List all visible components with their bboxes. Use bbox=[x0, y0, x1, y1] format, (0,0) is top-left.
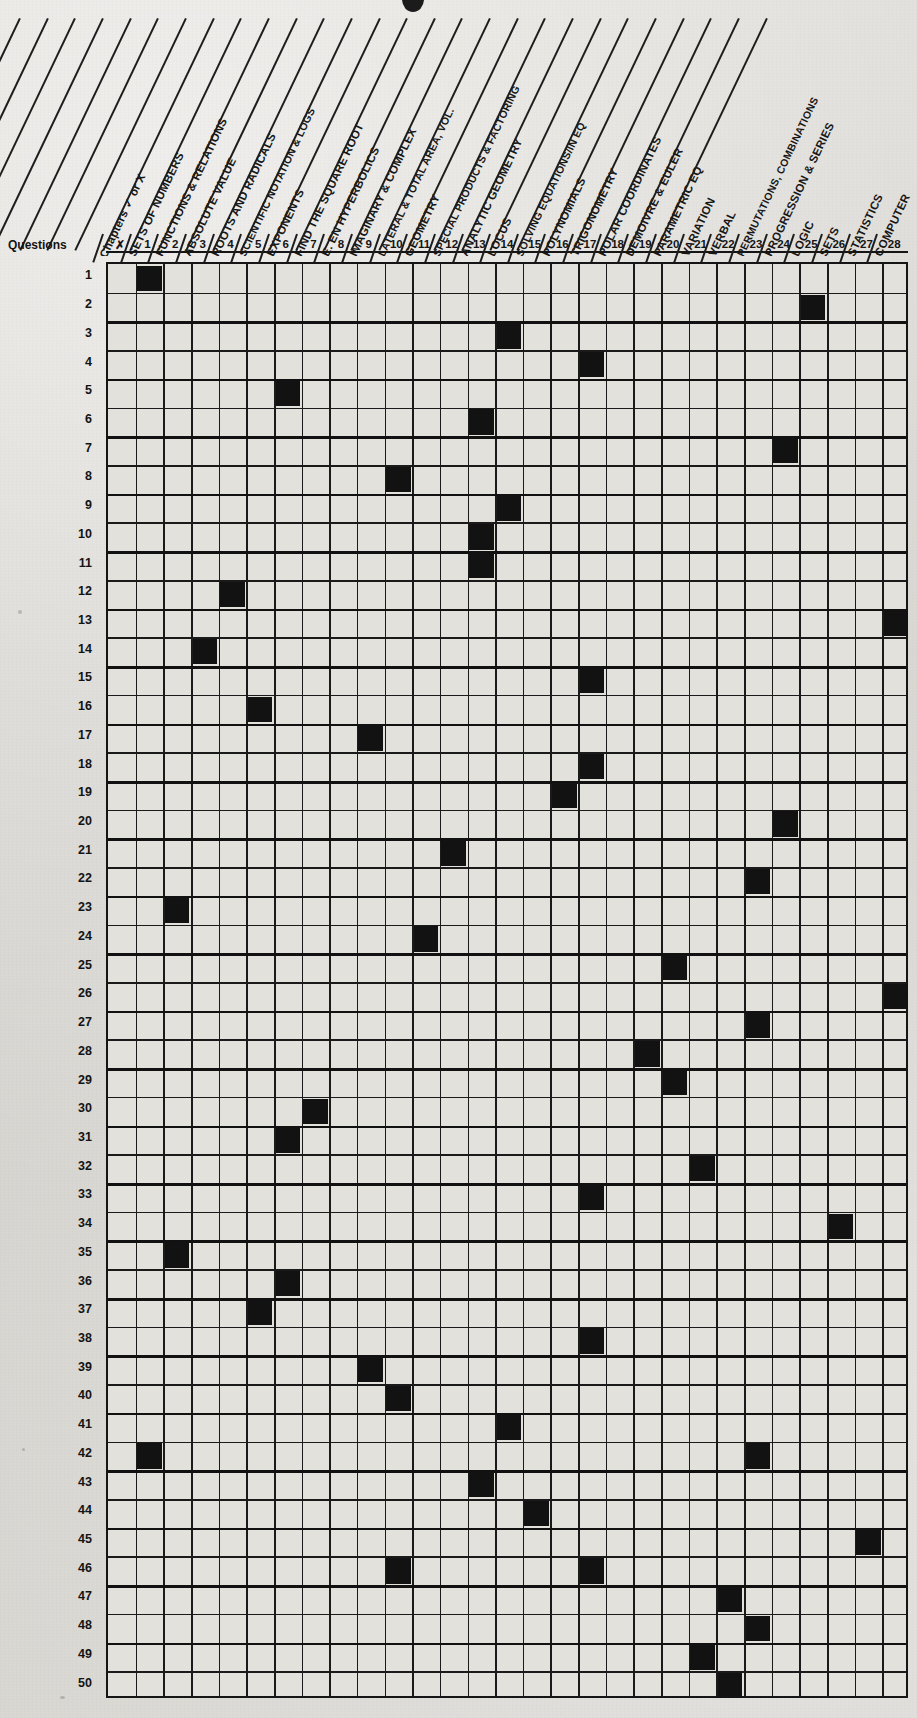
marked-cell[interactable] bbox=[856, 1529, 880, 1554]
row-number-label: 4 bbox=[85, 355, 92, 369]
row-number-label: 36 bbox=[78, 1274, 92, 1288]
grid-hline bbox=[108, 1499, 906, 1501]
row-number-label: 48 bbox=[78, 1618, 92, 1632]
marked-cell[interactable] bbox=[580, 1558, 604, 1583]
marked-cell[interactable] bbox=[884, 610, 908, 635]
column-number-label: 7 bbox=[300, 238, 328, 250]
row-number-label: 31 bbox=[78, 1130, 92, 1144]
grid-hline bbox=[108, 522, 906, 524]
marked-cell[interactable] bbox=[276, 381, 300, 406]
marked-cell[interactable] bbox=[746, 1443, 770, 1468]
grid-hline bbox=[108, 1212, 906, 1214]
marked-cell[interactable] bbox=[497, 496, 521, 521]
marked-cell[interactable] bbox=[386, 1558, 410, 1583]
row-number-label: 7 bbox=[85, 441, 92, 455]
marked-cell[interactable] bbox=[746, 869, 770, 894]
marked-cell[interactable] bbox=[718, 1673, 742, 1698]
grid-hline bbox=[108, 1298, 906, 1301]
marked-cell[interactable] bbox=[580, 1185, 604, 1210]
header-divider-slash bbox=[0, 18, 104, 251]
marked-cell[interactable] bbox=[718, 1587, 742, 1612]
grid-hline bbox=[108, 609, 906, 612]
grid-vline bbox=[191, 264, 193, 1696]
marked-cell[interactable] bbox=[165, 1242, 189, 1267]
marked-cell[interactable] bbox=[248, 1300, 272, 1325]
grid-vline bbox=[827, 264, 829, 1696]
marked-cell[interactable] bbox=[469, 409, 493, 434]
row-number-label: 32 bbox=[78, 1159, 92, 1173]
marked-cell[interactable] bbox=[690, 1644, 714, 1669]
marked-cell[interactable] bbox=[469, 553, 493, 578]
grid-hline bbox=[108, 1442, 906, 1444]
marked-cell[interactable] bbox=[690, 1156, 714, 1181]
marked-cell[interactable] bbox=[829, 1214, 853, 1239]
header-divider-slash bbox=[213, 18, 325, 251]
grid-hline bbox=[108, 925, 906, 927]
row-number-label: 25 bbox=[78, 958, 92, 972]
grid-hline bbox=[108, 1068, 906, 1071]
marked-cell[interactable] bbox=[580, 668, 604, 693]
row-number-label: 35 bbox=[78, 1245, 92, 1259]
marked-cell[interactable] bbox=[524, 1501, 548, 1526]
column-divider-slash bbox=[92, 234, 104, 263]
marked-cell[interactable] bbox=[469, 524, 493, 549]
marked-cell[interactable] bbox=[580, 754, 604, 779]
marked-cell[interactable] bbox=[580, 1328, 604, 1353]
marked-cell[interactable] bbox=[884, 984, 908, 1009]
grid-vline bbox=[219, 264, 221, 1696]
answer-grid[interactable] bbox=[106, 262, 908, 1698]
marked-cell[interactable] bbox=[137, 266, 161, 291]
grid-vline bbox=[246, 264, 248, 1696]
grid-hline bbox=[108, 1183, 906, 1186]
row-number-label: 41 bbox=[78, 1417, 92, 1431]
column-header-band: Chapters ✓ or XSETS OF NUMBERSFUNCTIONS … bbox=[0, 18, 917, 256]
marked-cell[interactable] bbox=[386, 1386, 410, 1411]
marked-cell[interactable] bbox=[441, 840, 465, 865]
row-number-column: 1234567891011121314151617181920212223242… bbox=[0, 262, 104, 1698]
row-number-label: 45 bbox=[78, 1532, 92, 1546]
row-number-label: 3 bbox=[85, 326, 92, 340]
grid-hline bbox=[108, 637, 906, 639]
grid-hline bbox=[108, 695, 906, 697]
marked-cell[interactable] bbox=[746, 1013, 770, 1038]
marked-cell[interactable] bbox=[746, 1616, 770, 1641]
marked-cell[interactable] bbox=[220, 582, 244, 607]
marked-cell[interactable] bbox=[497, 323, 521, 348]
column-number-label: 21 bbox=[687, 238, 715, 250]
grid-vline bbox=[136, 264, 138, 1696]
marked-cell[interactable] bbox=[773, 438, 797, 463]
row-number-label: 24 bbox=[78, 929, 92, 943]
marked-cell[interactable] bbox=[193, 639, 217, 664]
marked-cell[interactable] bbox=[276, 1127, 300, 1152]
grid-vline bbox=[882, 264, 884, 1696]
row-number-label: 17 bbox=[78, 728, 92, 742]
marked-cell[interactable] bbox=[635, 1041, 659, 1066]
column-number-label: 27 bbox=[853, 238, 881, 250]
marked-cell[interactable] bbox=[497, 1415, 521, 1440]
marked-cell[interactable] bbox=[580, 352, 604, 377]
header-divider-slash bbox=[600, 18, 712, 251]
row-number-label: 2 bbox=[85, 297, 92, 311]
marked-cell[interactable] bbox=[137, 1443, 161, 1468]
marked-cell[interactable] bbox=[358, 725, 382, 750]
marked-cell[interactable] bbox=[552, 783, 576, 808]
row-number-label: 30 bbox=[78, 1101, 92, 1115]
marked-cell[interactable] bbox=[773, 811, 797, 836]
marked-cell[interactable] bbox=[248, 697, 272, 722]
marked-cell[interactable] bbox=[276, 1271, 300, 1296]
marked-cell[interactable] bbox=[386, 467, 410, 492]
marked-cell[interactable] bbox=[801, 295, 825, 320]
row-number-label: 38 bbox=[78, 1331, 92, 1345]
grid-hline bbox=[108, 408, 906, 410]
marked-cell[interactable] bbox=[414, 926, 438, 951]
grid-vline bbox=[302, 264, 304, 1696]
row-number-label: 1 bbox=[85, 268, 92, 282]
marked-cell[interactable] bbox=[469, 1472, 493, 1497]
grid-body[interactable] bbox=[106, 262, 908, 1698]
marked-cell[interactable] bbox=[663, 955, 687, 980]
marked-cell[interactable] bbox=[358, 1357, 382, 1382]
marked-cell[interactable] bbox=[663, 1070, 687, 1095]
marked-cell[interactable] bbox=[165, 898, 189, 923]
grid-vline bbox=[855, 264, 857, 1696]
marked-cell[interactable] bbox=[303, 1099, 327, 1124]
